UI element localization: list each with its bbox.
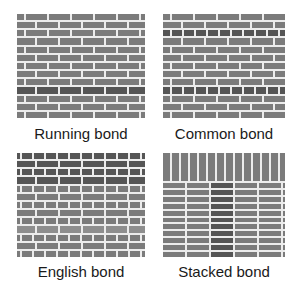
brick bbox=[17, 186, 20, 192]
brick bbox=[130, 186, 140, 192]
brick bbox=[235, 245, 257, 250]
brick bbox=[37, 71, 58, 77]
brick bbox=[34, 186, 44, 192]
brick bbox=[17, 177, 35, 184]
brick bbox=[34, 218, 44, 224]
brick bbox=[49, 96, 70, 102]
brick bbox=[141, 47, 145, 53]
brick bbox=[244, 153, 251, 181]
brick bbox=[17, 63, 24, 69]
brick bbox=[37, 104, 58, 110]
brick bbox=[232, 87, 242, 94]
brick bbox=[163, 63, 170, 69]
brick bbox=[22, 251, 32, 257]
brick bbox=[218, 47, 239, 53]
brick bbox=[163, 218, 185, 222]
brick bbox=[259, 190, 281, 195]
brick bbox=[211, 211, 233, 216]
brick bbox=[252, 104, 273, 110]
brick bbox=[235, 204, 257, 209]
brick bbox=[187, 224, 209, 229]
brick bbox=[60, 87, 81, 94]
brick bbox=[163, 183, 185, 188]
brick bbox=[208, 87, 218, 94]
brick bbox=[106, 186, 116, 192]
brick bbox=[83, 161, 104, 167]
brick bbox=[172, 87, 182, 94]
brick bbox=[283, 238, 285, 243]
brick bbox=[46, 235, 56, 241]
brick bbox=[163, 197, 185, 202]
brick bbox=[218, 79, 239, 85]
brick bbox=[106, 161, 127, 167]
brick bbox=[211, 190, 233, 195]
brick bbox=[283, 183, 285, 188]
brick bbox=[217, 153, 224, 181]
brick bbox=[163, 238, 185, 243]
brick bbox=[252, 55, 273, 61]
brick bbox=[26, 96, 47, 102]
brick bbox=[17, 104, 35, 110]
brick bbox=[130, 169, 140, 175]
brick bbox=[211, 252, 233, 257]
brick bbox=[163, 79, 170, 85]
brick bbox=[22, 169, 32, 175]
brick bbox=[83, 243, 104, 249]
brick bbox=[163, 231, 185, 236]
brick bbox=[70, 186, 80, 192]
brick bbox=[17, 112, 24, 118]
brick bbox=[60, 194, 81, 200]
brick bbox=[172, 30, 182, 36]
brick bbox=[268, 87, 278, 94]
brick bbox=[118, 153, 128, 159]
brick bbox=[229, 104, 250, 110]
brick bbox=[259, 238, 281, 243]
brick bbox=[187, 190, 209, 195]
brick bbox=[187, 197, 209, 202]
brick bbox=[163, 245, 185, 250]
brick bbox=[163, 47, 170, 53]
brick bbox=[49, 63, 70, 69]
brick bbox=[95, 14, 116, 20]
brick bbox=[172, 112, 193, 118]
brick bbox=[17, 22, 35, 28]
brick bbox=[283, 245, 285, 250]
brick bbox=[95, 79, 116, 85]
brick bbox=[26, 47, 47, 53]
brick bbox=[259, 197, 281, 202]
brick bbox=[130, 235, 140, 241]
brick bbox=[264, 63, 285, 69]
brick bbox=[106, 210, 127, 216]
brick bbox=[118, 218, 128, 224]
brick bbox=[17, 161, 35, 167]
brick bbox=[70, 202, 80, 208]
brick bbox=[252, 22, 273, 28]
brick bbox=[275, 104, 285, 110]
brick bbox=[22, 218, 32, 224]
brick bbox=[256, 87, 266, 94]
brick bbox=[163, 153, 170, 181]
brick bbox=[141, 112, 145, 118]
brick bbox=[187, 183, 209, 188]
brick bbox=[183, 22, 204, 28]
brick bbox=[196, 87, 206, 94]
brick bbox=[163, 96, 170, 102]
brick bbox=[17, 243, 35, 249]
brick bbox=[22, 235, 32, 241]
brick bbox=[94, 218, 104, 224]
brick bbox=[17, 87, 35, 94]
brick bbox=[206, 22, 227, 28]
brick bbox=[283, 252, 285, 257]
brick bbox=[218, 112, 239, 118]
brick bbox=[83, 210, 104, 216]
brick bbox=[46, 251, 56, 257]
brick bbox=[106, 71, 127, 77]
brick bbox=[17, 38, 35, 45]
brick bbox=[82, 218, 92, 224]
brick bbox=[195, 112, 216, 118]
brick bbox=[244, 30, 254, 36]
brick bbox=[211, 197, 233, 202]
brick bbox=[17, 30, 24, 36]
brick bbox=[142, 235, 145, 241]
brick bbox=[17, 153, 20, 159]
